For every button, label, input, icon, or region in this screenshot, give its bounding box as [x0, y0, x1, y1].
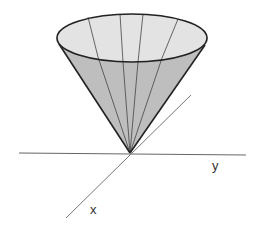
- cone-diagram: y x: [0, 0, 258, 229]
- x-axis-label: x: [90, 202, 97, 217]
- y-axis: [19, 153, 246, 155]
- y-axis-label: y: [212, 158, 219, 173]
